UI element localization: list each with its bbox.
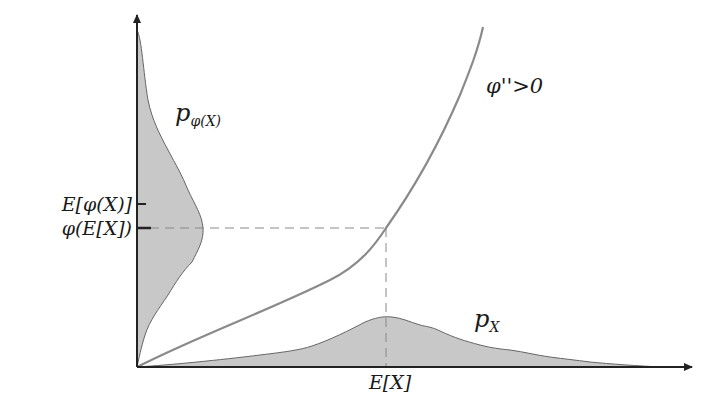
density-phi-x-label: pφ(X) — [175, 99, 221, 129]
py-sub: φ(X) — [190, 113, 221, 129]
density-x-label: pX — [474, 305, 500, 335]
density-x — [137, 317, 660, 367]
jensen-diagram: E[φ(X)] φ(E[X]) E[X] φ''>0 pφ(X) pX — [0, 0, 727, 412]
density-phi-x — [137, 30, 203, 367]
py-main: p — [175, 99, 190, 127]
px-sub: X — [488, 319, 500, 335]
curve-label: φ''>0 — [486, 74, 543, 98]
y-tick-label-upper: E[φ(X)] — [61, 193, 133, 215]
y-tick-label-lower: φ(E[X]) — [62, 217, 132, 239]
x-tick-label: E[X] — [368, 371, 412, 393]
px-main: p — [474, 305, 489, 333]
